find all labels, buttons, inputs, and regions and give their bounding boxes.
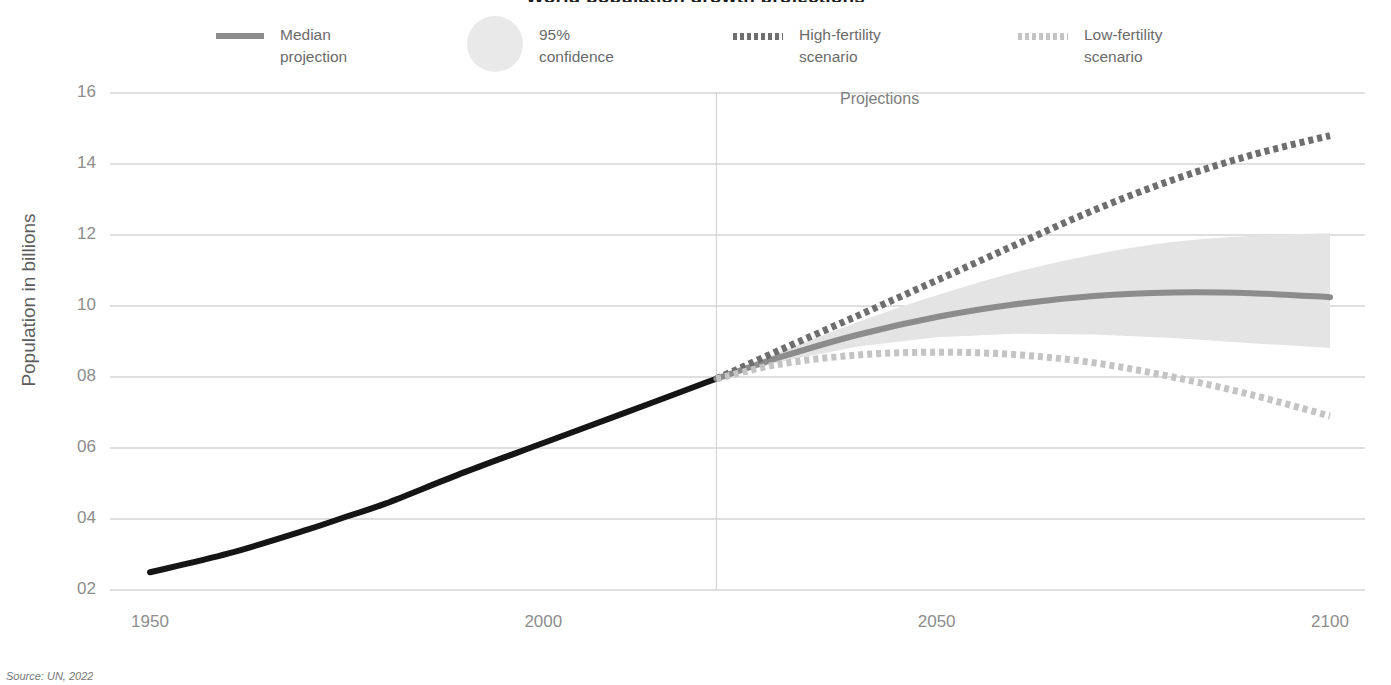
- series-line-historical: [150, 379, 716, 572]
- y-tick-label-08: 08: [52, 366, 96, 386]
- y-tick-label-10: 10: [52, 295, 96, 315]
- y-tick-label-04: 04: [52, 508, 96, 528]
- y-tick-label-16: 16: [52, 82, 96, 102]
- x-tick-label-2100: 2100: [1285, 612, 1375, 632]
- projections-annotation: Projections: [840, 90, 919, 108]
- source-note: Source: UN, 2022: [6, 670, 93, 685]
- y-axis-label: Population in billions: [18, 213, 40, 386]
- y-tick-label-02: 02: [52, 579, 96, 599]
- x-tick-label-2000: 2000: [498, 612, 588, 632]
- y-tick-label-14: 14: [52, 153, 96, 173]
- x-tick-label-2050: 2050: [892, 612, 982, 632]
- plot-area: [0, 0, 1391, 685]
- y-axis-label-wrap: Population in billions: [14, 0, 44, 600]
- y-tick-label-06: 06: [52, 437, 96, 457]
- chart-figure: World population growth projections Medi…: [0, 0, 1391, 685]
- x-tick-label-1950: 1950: [105, 612, 195, 632]
- plot-canvas: [0, 0, 1391, 685]
- series-line-low-fertility-scenario: [716, 352, 1330, 416]
- y-tick-label-12: 12: [52, 224, 96, 244]
